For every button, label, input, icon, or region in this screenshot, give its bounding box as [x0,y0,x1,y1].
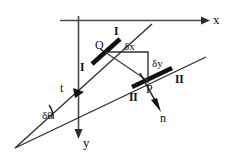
delta-theta-label: δθ [42,110,52,121]
delta-y-label: δy [152,58,163,69]
y-axis-label: y [83,136,90,149]
x-axis-label: x [213,13,220,26]
roman-II-right-label: II [175,74,184,86]
line-II-group [15,57,206,148]
normal-arrowhead [151,98,161,112]
delta-x-label: δx [124,41,135,52]
geometry-figure: x y Q P I I II II δx δy δθ t n [0,0,238,160]
point-Q-label: Q [95,39,104,51]
normal-vector-label: n [160,112,166,124]
roman-II-lower-label: II [129,92,138,104]
axes-group [60,16,210,139]
roman-I-lower-label: I [80,62,84,74]
figure-canvas [0,0,238,160]
x-axis-arrowhead [201,17,210,25]
line-II-ray [15,57,206,148]
displacement-group [105,52,149,83]
y-axis-arrowhead [75,129,83,139]
point-P-label: P [146,83,153,95]
roman-I-upper-label: I [114,26,118,38]
tangent-vector-label: t [60,82,63,94]
